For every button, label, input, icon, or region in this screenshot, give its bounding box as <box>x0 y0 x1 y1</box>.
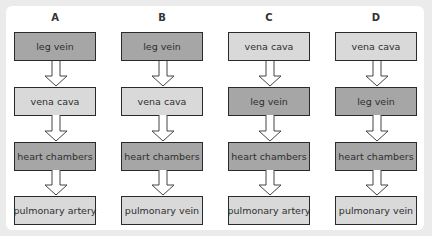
down-arrow-icon <box>257 115 283 142</box>
flow-box: vena cava <box>335 32 417 61</box>
column-b: B leg vein vena cava heart chambers pulm… <box>121 0 203 236</box>
down-arrow-icon <box>43 115 69 142</box>
flow-box: leg vein <box>335 87 417 116</box>
flow-box: vena cava <box>121 87 203 116</box>
flow-box: leg vein <box>228 87 310 116</box>
down-arrow-icon <box>43 170 69 196</box>
flow-box: pulmonary vein <box>121 196 203 225</box>
flow-box: vena cava <box>14 87 96 116</box>
down-arrow-icon <box>364 61 390 87</box>
down-arrow-icon <box>150 115 176 142</box>
flow-box: heart chambers <box>335 142 417 171</box>
column-d: D vena cava leg vein heart chambers pulm… <box>335 0 417 236</box>
flow-box: heart chambers <box>14 142 96 171</box>
flow-box: pulmonary vein <box>335 196 417 225</box>
flow-box: leg vein <box>14 32 96 61</box>
down-arrow-icon <box>257 170 283 196</box>
down-arrow-icon <box>364 115 390 142</box>
down-arrow-icon <box>257 61 283 87</box>
down-arrow-icon <box>150 170 176 196</box>
flow-box: leg vein <box>121 32 203 61</box>
down-arrow-icon <box>150 61 176 87</box>
flow-box: pulmonary artery <box>14 196 96 225</box>
flow-box: pulmonary artery <box>228 196 310 225</box>
flow-box: heart chambers <box>228 142 310 171</box>
down-arrow-icon <box>43 61 69 87</box>
down-arrow-icon <box>364 170 390 196</box>
column-label: D <box>335 12 417 23</box>
flow-box: vena cava <box>228 32 310 61</box>
column-a: A leg vein vena cava heart chambers pulm… <box>14 0 96 236</box>
column-c: C vena cava leg vein heart chambers pulm… <box>228 0 310 236</box>
column-label: A <box>14 12 96 23</box>
flow-box: heart chambers <box>121 142 203 171</box>
column-label: C <box>228 12 310 23</box>
column-label: B <box>121 12 203 23</box>
